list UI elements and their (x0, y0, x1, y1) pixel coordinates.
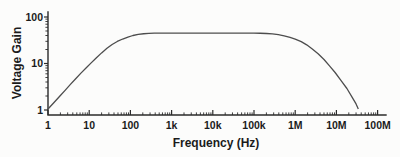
svg-text:1: 1 (37, 104, 43, 116)
x-axis-tick-labels: 1101001k10k100k1M10M100M (45, 119, 391, 131)
svg-text:10k: 10k (204, 119, 222, 131)
response-curve (48, 33, 358, 109)
svg-text:10: 10 (31, 57, 43, 69)
axes (48, 12, 386, 115)
svg-text:10: 10 (83, 119, 95, 131)
y-axis-tick-labels: 110100 (25, 11, 43, 116)
svg-text:1k: 1k (166, 119, 178, 131)
svg-text:100M: 100M (364, 119, 391, 131)
x-axis-label: Frequency (Hz) (173, 136, 260, 150)
gain-vs-frequency-chart: 1101001k10k100k1M10M100M 110100 Frequenc… (0, 0, 400, 157)
svg-text:100k: 100k (242, 119, 266, 131)
svg-text:10M: 10M (326, 119, 347, 131)
x-axis-major-ticks (48, 110, 378, 115)
y-axis-label: Voltage Gain (10, 27, 24, 99)
svg-text:100: 100 (122, 119, 140, 131)
chart-page: 1101001k10k100k1M10M100M 110100 Frequenc… (0, 0, 400, 157)
svg-text:100: 100 (25, 11, 43, 23)
svg-text:1M: 1M (288, 119, 303, 131)
svg-text:1: 1 (45, 119, 51, 131)
